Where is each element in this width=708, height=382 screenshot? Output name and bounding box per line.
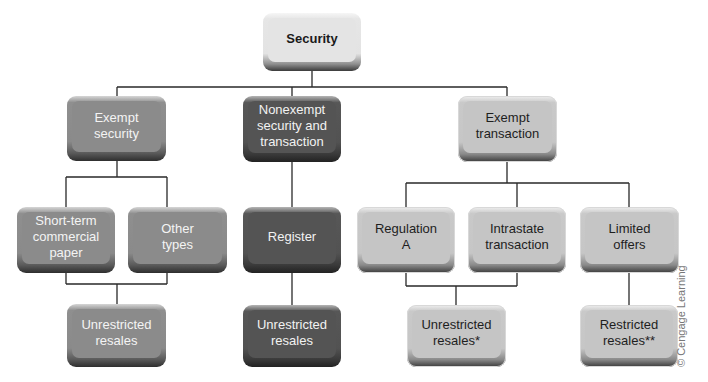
node-label: Unrestricted resales xyxy=(81,317,151,349)
node-label: Other types xyxy=(161,221,194,253)
connector-exempt-transaction xyxy=(406,161,629,207)
node-regulation-a: Regulation A xyxy=(357,207,455,273)
node-exempt-security: Exempt security xyxy=(67,96,166,161)
node-intrastate-transaction: Intrastate transaction xyxy=(468,207,566,273)
node-nonexempt-security-and-transaction: Nonexempt security and transaction xyxy=(243,96,341,162)
node-label: Exempt security xyxy=(94,110,139,142)
node-unrestricted-resales-1: Unrestricted resales xyxy=(67,304,166,367)
node-label: Limited offers xyxy=(609,221,651,253)
node-limited-offers: Limited offers xyxy=(580,207,679,273)
node-label: Unrestricted resales* xyxy=(421,317,491,349)
copyright-credit: © Cengage Learning xyxy=(675,267,687,367)
connector-root xyxy=(117,70,507,96)
node-label: Intrastate transaction xyxy=(485,221,549,253)
node-exempt-transaction: Exempt transaction xyxy=(458,96,557,162)
node-label: Nonexempt security and transaction xyxy=(257,102,327,150)
node-label: Unrestricted resales xyxy=(257,317,327,349)
node-unrestricted-resales-2: Unrestricted resales xyxy=(243,305,341,367)
node-security: Security xyxy=(263,13,361,71)
node-label: Restricted resales** xyxy=(600,317,659,349)
node-restricted-resales: Restricted resales** xyxy=(580,305,678,367)
node-label: Register xyxy=(268,229,316,245)
connector-exempt-security xyxy=(66,160,167,207)
node-short-term-commercial-paper: Short-term commercial paper xyxy=(17,207,115,273)
connector-unrestricted-3 xyxy=(406,272,517,305)
node-other-types: Other types xyxy=(128,207,227,273)
node-label: Security xyxy=(286,31,337,47)
node-unrestricted-resales-3: Unrestricted resales* xyxy=(407,305,506,367)
node-register: Register xyxy=(243,207,341,273)
node-label: Regulation A xyxy=(375,221,437,253)
node-label: Short-term commercial paper xyxy=(33,213,99,261)
connector-unrestricted-1 xyxy=(66,272,167,304)
node-label: Exempt transaction xyxy=(476,110,540,142)
